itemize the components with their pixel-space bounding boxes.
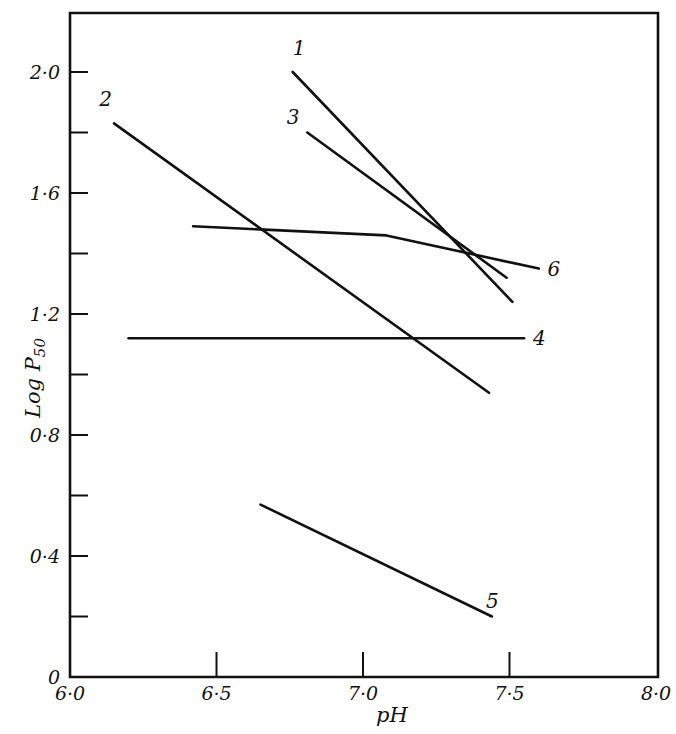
plot-border [70, 13, 658, 677]
series-line-2 [114, 123, 489, 392]
y-axis-title: Log P50 [21, 338, 49, 419]
x-tick-label: 7·0 [348, 682, 378, 704]
y-tick-label: 1·6 [30, 182, 60, 204]
log-p50-vs-ph-chart: 00·40·81·21·62·06·06·57·07·58·0 123456 p… [0, 0, 676, 734]
x-tick-label: 6·0 [55, 682, 85, 704]
series-label-6: 6 [548, 257, 561, 281]
series-line-1 [293, 72, 513, 302]
y-tick-label: 2·0 [29, 61, 60, 83]
series-label-1: 1 [293, 36, 306, 60]
x-axis-title: pH [376, 703, 408, 727]
x-tick-label: 8·0 [641, 682, 671, 704]
series-label-2: 2 [98, 87, 112, 111]
data-series [114, 72, 539, 617]
y-tick-label: 0·4 [30, 545, 60, 567]
x-tick-label: 6·5 [201, 682, 231, 704]
series-label-5: 5 [486, 589, 499, 613]
series-label-4: 4 [532, 326, 546, 350]
plot-frame [70, 13, 658, 677]
series-line-5 [261, 505, 492, 617]
series-labels: 123456 [98, 36, 560, 614]
x-tick-label: 7·5 [494, 682, 524, 704]
y-tick-label: 0·8 [30, 424, 60, 446]
y-tick-label: 1·2 [30, 303, 60, 325]
series-label-3: 3 [287, 105, 300, 129]
axis-ticks: 00·40·81·21·62·06·06·57·07·58·0 [29, 61, 671, 704]
